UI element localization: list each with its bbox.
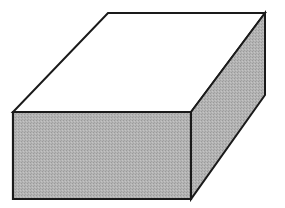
cuboid-diagram <box>0 0 285 208</box>
diagram-canvas <box>0 0 285 208</box>
front-face <box>13 112 191 199</box>
